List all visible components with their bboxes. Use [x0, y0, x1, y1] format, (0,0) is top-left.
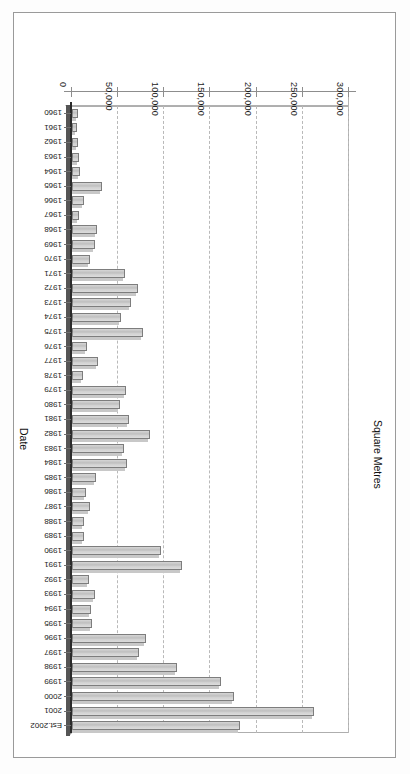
value-axis-tick [210, 87, 211, 97]
category-axis-label: 1996 [44, 633, 62, 642]
bar [72, 692, 234, 701]
bar-chart: 050,000100,000150,000200,000250,000300,0… [13, 12, 396, 758]
category-axis-tick [64, 404, 71, 405]
gridline [163, 106, 164, 733]
bar [72, 167, 80, 176]
bar-top-face [70, 584, 87, 587]
value-axis-tick-label: 300,000 [335, 82, 345, 116]
category-axis-label: 1992 [44, 575, 62, 584]
category-axis-label: 1979 [44, 385, 62, 394]
bar [72, 517, 84, 526]
bar [72, 386, 126, 395]
category-axis-label: 1977 [44, 356, 62, 365]
category-axis-label: 1974 [44, 312, 62, 321]
bar [72, 532, 84, 541]
bar-top-face [70, 249, 93, 252]
bar-top-face [70, 482, 94, 485]
bar-top-face [70, 337, 141, 340]
bar [72, 663, 177, 672]
category-axis-tick [64, 594, 71, 595]
category-axis-label: 1994 [44, 604, 62, 613]
bar-top-face [70, 570, 180, 573]
bar [72, 590, 95, 599]
bar-top-face [70, 424, 127, 427]
bar [72, 109, 78, 118]
bar-top-face [70, 322, 119, 325]
category-axis-label: 1993 [44, 589, 62, 598]
category-axis-label: 1980 [44, 400, 62, 409]
bar-top-face [70, 468, 125, 471]
category-axis-tick [64, 375, 71, 376]
bar-top-face [70, 293, 136, 296]
bar [72, 371, 83, 380]
category-axis-tick [64, 113, 71, 114]
category-axis-tick [64, 521, 71, 522]
bar [72, 634, 146, 643]
category-axis-label: 1969 [44, 240, 62, 249]
category-axis-tick [64, 361, 71, 362]
category-axis-tick [64, 273, 71, 274]
category-axis-label: 2001 [44, 706, 62, 715]
value-axis-tick-label: 100,000 [150, 82, 160, 116]
category-axis-tick [64, 696, 71, 697]
bar-top-face [70, 686, 219, 689]
bar [72, 444, 124, 453]
bar-top-face [70, 453, 122, 456]
category-axis-label: 1990 [44, 546, 62, 555]
bar-top-face [70, 614, 89, 617]
category-axis-tick [64, 507, 71, 508]
category-axis-label: Est.2002 [30, 721, 62, 730]
bar-top-face [70, 439, 148, 442]
bar [72, 575, 89, 584]
bar [72, 430, 150, 439]
bar [72, 677, 221, 686]
bar-top-face [70, 657, 137, 660]
category-axis-tick [64, 215, 71, 216]
bar-top-face [70, 191, 100, 194]
category-axis-label: 1975 [44, 327, 62, 336]
category-axis-label: 1983 [44, 444, 62, 453]
category-axis-label: 1991 [44, 560, 62, 569]
bar [72, 605, 91, 614]
category-axis-label: 1984 [44, 458, 62, 467]
bar-top-face [70, 351, 85, 354]
category-axis-tick [64, 186, 71, 187]
bar [72, 707, 314, 716]
value-axis-tick-label: 250,000 [289, 82, 299, 116]
category-axis-tick [64, 448, 71, 449]
category-axis-tick [64, 157, 71, 158]
value-axis-tick-label: 150,000 [197, 82, 207, 116]
value-axis-title: Square Metres [372, 420, 384, 489]
category-axis-label: 1986 [44, 487, 62, 496]
bar-top-face [70, 307, 129, 310]
bar-top-face [70, 278, 123, 281]
category-axis-label: 1995 [44, 619, 62, 628]
category-axis-label: 1988 [44, 517, 62, 526]
bar [72, 123, 77, 132]
bar [72, 400, 120, 409]
bar-top-face [70, 730, 238, 733]
category-axis-label: 1998 [44, 662, 62, 671]
bar [72, 546, 161, 555]
bar-top-face [70, 701, 232, 704]
bar [72, 313, 121, 322]
category-axis-label: 1968 [44, 225, 62, 234]
category-axis-tick [64, 623, 71, 624]
category-axis-label: 1963 [44, 152, 62, 161]
category-axis-label: 1962 [44, 137, 62, 146]
category-axis-label: 1965 [44, 181, 62, 190]
bar-top-face [70, 716, 312, 719]
category-axis-tick [64, 244, 71, 245]
bar [72, 459, 127, 468]
bar [72, 328, 143, 337]
bar-top-face [70, 672, 175, 675]
category-axis-tick [64, 332, 71, 333]
bar-top-face [70, 395, 124, 398]
value-axis-tick-label: 50,000 [104, 82, 114, 111]
category-axis-label: 1981 [44, 415, 62, 424]
category-axis-tick [64, 477, 71, 478]
category-axis-tick [64, 302, 71, 303]
category-axis-tick [64, 288, 71, 289]
category-axis-tick [64, 229, 71, 230]
gridline [210, 106, 211, 733]
